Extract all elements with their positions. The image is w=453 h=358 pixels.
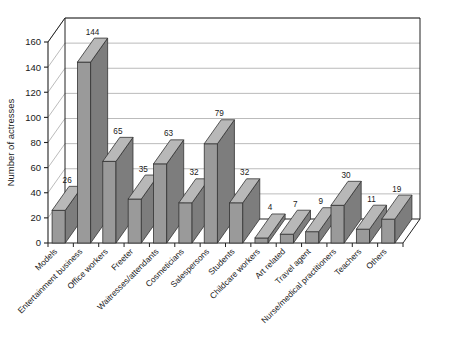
y-axis-ticks: 020406080100120140160 <box>25 36 48 248</box>
bar-front-face <box>128 199 141 243</box>
y-tick-label: 140 <box>25 62 41 73</box>
bar-chart: 020406080100120140160Number of actresses… <box>0 0 453 358</box>
y-tick-label: 40 <box>30 187 41 198</box>
bar-value-label: 26 <box>63 176 73 185</box>
bar-value-label: 4 <box>268 203 273 212</box>
y-tick-label: 160 <box>25 36 41 47</box>
bar-front-face <box>382 219 395 243</box>
bar-value-label: 32 <box>240 168 250 177</box>
bar-value-label: 79 <box>215 109 225 118</box>
bar-front-face <box>154 164 167 243</box>
bar-front-face <box>331 205 344 243</box>
bar-value-label: 30 <box>342 171 352 180</box>
x-category-label: Others <box>364 246 389 271</box>
x-category-label: Teachers <box>332 246 363 277</box>
bar-front-face <box>255 238 268 243</box>
bar-front-face <box>230 203 243 243</box>
y-tick-label: 20 <box>30 212 41 223</box>
chart-canvas: 020406080100120140160Number of actresses… <box>0 0 453 358</box>
y-tick-label: 80 <box>30 137 41 148</box>
bar-front-face <box>356 229 369 243</box>
y-tick-label: 0 <box>36 237 41 248</box>
y-tick-label: 120 <box>25 87 41 98</box>
bar-front-face <box>179 203 192 243</box>
y-tick-label: 60 <box>30 162 41 173</box>
bar-front-face <box>103 161 116 243</box>
y-tick-label: 100 <box>25 112 41 123</box>
bar-value-label: 63 <box>164 129 174 138</box>
bar-value-label: 35 <box>139 165 149 174</box>
bar-value-label: 7 <box>293 200 298 209</box>
bar-value-label: 19 <box>392 185 402 194</box>
bar-front-face <box>306 232 319 243</box>
bar-front-face <box>204 144 217 243</box>
y-axis-title: Number of actresses <box>5 98 16 186</box>
bar-value-label: 65 <box>113 127 123 136</box>
bar-value-label: 32 <box>189 168 199 177</box>
bar-value-label: 144 <box>86 28 100 37</box>
bar-value-label: 9 <box>318 197 323 206</box>
bar-front-face <box>52 210 65 243</box>
bar-front-face <box>280 234 293 243</box>
category-labels-group: ModelsEntertainment businessOffice worke… <box>15 243 403 325</box>
bar-value-label: 11 <box>367 195 376 204</box>
bar-front-face <box>77 62 90 243</box>
